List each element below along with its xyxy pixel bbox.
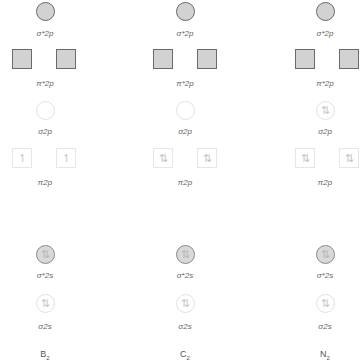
- sigma-2s-orbital: ⇅: [176, 294, 195, 313]
- sigma-2p-label: σ2p: [280, 127, 363, 136]
- molecule-label: B2: [0, 349, 90, 361]
- molecule-column-b2: σ*2p π*2p σ2p ↿ ↿ π2p ⇅ σ*2s ⇅ σ2s B2: [0, 0, 90, 364]
- sigma-star-2s-orbital: ⇅: [316, 245, 335, 264]
- sigma-star-2p-orbital: [176, 2, 195, 21]
- pi-2p-orbital-1: ↿: [12, 148, 32, 168]
- sigma-star-2p-orbital: [316, 2, 335, 21]
- pi-2p-orbital-2: ↿: [56, 148, 76, 168]
- pi-star-2p-orbital-1: [295, 49, 315, 69]
- sigma-2p-label: σ2p: [140, 127, 230, 136]
- sigma-2p-orbital: [176, 101, 195, 120]
- sigma-2s-orbital: ⇅: [36, 294, 55, 313]
- pi-2p-label: π2p: [0, 178, 90, 187]
- molecule-label: N2: [280, 349, 363, 361]
- pi-star-2p-label: π*2p: [140, 79, 230, 88]
- sigma-star-2s-label: σ*2s: [280, 271, 363, 280]
- sigma-star-2p-orbital: [36, 2, 55, 21]
- sigma-2s-orbital: ⇅: [316, 294, 335, 313]
- sigma-star-2s-label: σ*2s: [0, 271, 90, 280]
- molecule-label: C2: [140, 349, 230, 361]
- sigma-2p-orbital: ⇅: [316, 101, 335, 120]
- pi-2p-orbital-1: ⇅: [295, 148, 315, 168]
- pi-star-2p-orbital-2: [339, 49, 359, 69]
- sigma-star-2p-label: σ*2p: [140, 29, 230, 38]
- pi-star-2p-orbital-2: [56, 49, 76, 69]
- sigma-2s-label: σ2s: [140, 322, 230, 331]
- sigma-2p-label: σ2p: [0, 127, 90, 136]
- molecule-column-c2: σ*2p π*2p σ2p ⇅ ⇅ π2p ⇅ σ*2s ⇅ σ2s C2: [140, 0, 230, 364]
- pi-star-2p-orbital-1: [153, 49, 173, 69]
- sigma-star-2p-label: σ*2p: [280, 29, 363, 38]
- pi-star-2p-orbital-1: [12, 49, 32, 69]
- sigma-2s-label: σ2s: [280, 322, 363, 331]
- sigma-2p-orbital: [36, 101, 55, 120]
- sigma-star-2p-label: σ*2p: [0, 29, 90, 38]
- sigma-star-2s-orbital: ⇅: [36, 245, 55, 264]
- sigma-star-2s-orbital: ⇅: [176, 245, 195, 264]
- sigma-2s-label: σ2s: [0, 322, 90, 331]
- pi-star-2p-label: π*2p: [0, 79, 90, 88]
- molecule-column-n2: σ*2p π*2p ⇅ σ2p ⇅ ⇅ π2p ⇅ σ*2s ⇅ σ2s N2: [280, 0, 363, 364]
- pi-2p-label: π2p: [140, 178, 230, 187]
- pi-star-2p-orbital-2: [197, 49, 217, 69]
- pi-2p-orbital-2: ⇅: [339, 148, 359, 168]
- pi-2p-orbital-2: ⇅: [197, 148, 217, 168]
- pi-2p-orbital-1: ⇅: [153, 148, 173, 168]
- pi-star-2p-label: π*2p: [280, 79, 363, 88]
- sigma-star-2s-label: σ*2s: [140, 271, 230, 280]
- pi-2p-label: π2p: [280, 178, 363, 187]
